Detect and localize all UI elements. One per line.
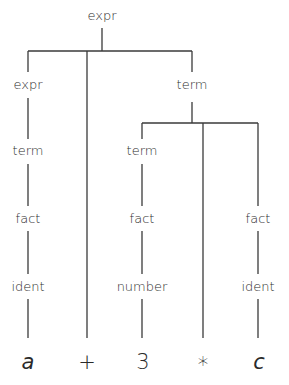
- node-right-fact: fact: [246, 211, 271, 226]
- node-root-expr: expr: [87, 8, 117, 23]
- node-left-expr: expr: [13, 77, 43, 92]
- leaf-plus: +: [78, 350, 96, 374]
- leaf-3: 3: [136, 350, 149, 374]
- parse-tree-diagram: expr expr term fact ident a + term term …: [0, 0, 289, 385]
- node-left-ident: ident: [11, 279, 44, 294]
- node-left-fact: fact: [16, 211, 41, 226]
- node-right-ident: ident: [241, 279, 274, 294]
- leaf-a: a: [22, 350, 35, 374]
- leaf-star: *: [198, 353, 209, 377]
- node-right-term: term: [177, 77, 208, 92]
- node-left-term: term: [13, 143, 44, 158]
- node-mid-fact: fact: [130, 211, 155, 226]
- leaf-c: c: [253, 350, 265, 374]
- node-mid-term: term: [127, 143, 158, 158]
- node-mid-number: number: [117, 279, 168, 294]
